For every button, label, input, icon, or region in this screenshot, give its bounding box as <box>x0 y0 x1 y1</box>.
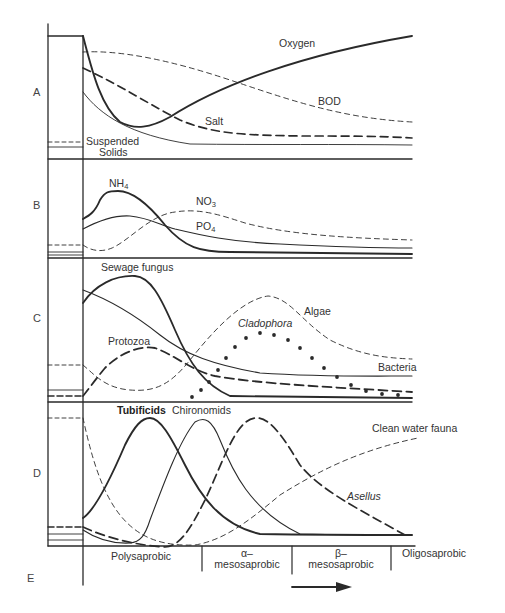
oxygen-curve <box>83 36 412 127</box>
label-po4: PO4 <box>196 220 215 234</box>
label-oxygen: Oxygen <box>279 37 315 49</box>
clean-water-fauna-curve <box>83 418 418 545</box>
zone-alpha-mesosaprobic: mesosaprobic <box>214 558 279 570</box>
panel-b-curves <box>48 191 412 255</box>
label-bod: BOD <box>318 95 341 107</box>
chironomids-curve <box>83 419 412 543</box>
asellus-curve <box>83 418 405 547</box>
label-clean-water-fauna: Clean water fauna <box>372 422 457 434</box>
label-nh4: NH4 <box>109 177 128 191</box>
label-no3: NO3 <box>196 195 216 209</box>
label-algae: Algae <box>304 305 331 317</box>
label-chironomids: Chironomids <box>172 404 231 416</box>
label-salt: Salt <box>205 115 223 127</box>
label-protozoa: Protozoa <box>108 335 150 347</box>
protozoa-curve <box>83 347 412 396</box>
label-sewage-fungus: Sewage fungus <box>101 261 173 273</box>
zone-beta-mesosaprobic: mesosaprobic <box>308 558 373 570</box>
label-cladophora: Cladophora <box>238 317 292 329</box>
pollution-profile-diagram: A B C D E Oxygen BOD Salt Suspended Soli… <box>0 0 505 613</box>
nh4-curve <box>83 191 412 254</box>
panel-a-curves <box>48 36 412 147</box>
label-tubificids: Tubificids <box>117 404 166 416</box>
zone-oligosaprobic: Oligosaprobic <box>402 547 466 559</box>
panel-label-b: B <box>33 199 40 211</box>
panel-d-curves <box>48 418 418 547</box>
po4-curve <box>83 216 412 248</box>
panel-label-e: E <box>27 572 34 584</box>
tubificids-curve <box>83 418 412 535</box>
downstream-arrow <box>292 582 352 592</box>
label-solids: Solids <box>99 146 128 158</box>
label-asellus: Asellus <box>346 490 382 502</box>
bacteria-curve <box>83 290 412 376</box>
panel-label-d: D <box>33 467 41 479</box>
panel-c-curves <box>48 276 412 398</box>
zone-polysaprobic: Polysaprobic <box>111 550 171 562</box>
panel-label-a: A <box>33 86 41 98</box>
bod-curve <box>83 52 412 122</box>
panel-label-c: C <box>33 312 41 324</box>
label-bacteria: Bacteria <box>378 361 417 373</box>
